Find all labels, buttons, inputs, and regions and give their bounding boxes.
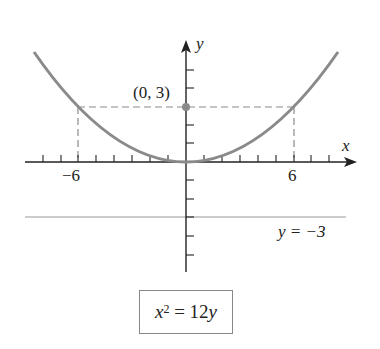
equation-rest: = 12 bbox=[169, 301, 208, 323]
equation-exponent: 2 bbox=[163, 302, 169, 317]
equation-var: y bbox=[209, 301, 217, 323]
directrix-label: y = −3 bbox=[278, 222, 326, 242]
tick-label-neg-six: −6 bbox=[62, 166, 80, 186]
y-axis bbox=[186, 46, 194, 272]
tick-label-pos-six: 6 bbox=[288, 166, 297, 186]
y-axis-label: y bbox=[196, 34, 204, 54]
equation-base: x bbox=[155, 301, 163, 323]
focus-point bbox=[182, 103, 190, 111]
x-axis-label: x bbox=[342, 136, 350, 156]
focus-point-label: (0, 3) bbox=[133, 83, 170, 103]
equation-box: x2 = 12y bbox=[139, 290, 233, 334]
